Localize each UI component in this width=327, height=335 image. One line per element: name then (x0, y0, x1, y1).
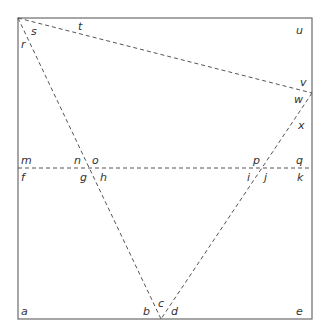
label-b: b (143, 305, 150, 318)
label-w: w (294, 93, 303, 106)
label-j: j (262, 171, 268, 184)
label-e: e (296, 305, 303, 318)
label-x: x (297, 119, 305, 132)
label-f: f (21, 171, 27, 184)
dashed-line-top-left-to-right-vertex (18, 18, 312, 93)
label-n: n (74, 154, 81, 167)
label-m: m (21, 154, 32, 167)
label-h: h (100, 171, 107, 184)
label-u: u (296, 24, 303, 37)
geometry-diagram: struvwxmnopqfghijkabcde (0, 0, 327, 335)
label-v: v (300, 76, 307, 89)
label-t: t (78, 20, 83, 33)
label-d: d (171, 305, 179, 318)
label-q: q (296, 154, 303, 167)
label-s: s (31, 25, 37, 38)
label-a: a (21, 305, 28, 318)
label-o: o (92, 154, 99, 167)
label-k: k (297, 171, 304, 184)
label-g: g (80, 171, 87, 184)
dashed-line-right-vertex-to-bottom (161, 93, 312, 319)
dashed-lines (18, 18, 312, 319)
label-r: r (21, 38, 27, 51)
label-i: i (247, 171, 250, 184)
label-p: p (252, 154, 260, 167)
label-c: c (158, 297, 164, 310)
point-labels: struvwxmnopqfghijkabcde (21, 20, 307, 318)
